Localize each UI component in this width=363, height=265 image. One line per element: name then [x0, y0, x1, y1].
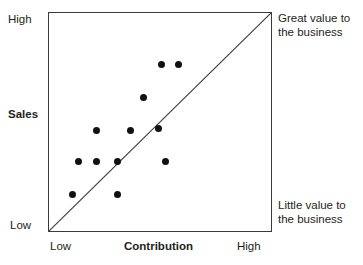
y-axis-low-label: Low	[10, 219, 31, 232]
annotation-little-value: Little value to the business	[278, 198, 346, 226]
data-point	[162, 158, 169, 165]
x-axis-high-label: High	[237, 240, 261, 253]
y-axis-high-label: High	[8, 13, 32, 26]
scatter-plot-figure: High Sales Low Low Contribution High Gre…	[0, 0, 363, 265]
annotation-great-value-line1: Great value to	[278, 11, 350, 25]
data-point	[175, 61, 182, 68]
diagonal-parity-line	[49, 13, 271, 231]
data-point	[127, 127, 134, 134]
plot-area	[48, 12, 272, 232]
x-axis-title: Contribution	[124, 240, 193, 253]
y-axis-title: Sales	[8, 108, 38, 121]
annotation-great-value: Great value to the business	[278, 11, 350, 39]
x-axis-low-label: Low	[50, 240, 71, 253]
annotation-little-value-line1: Little value to	[278, 198, 346, 212]
data-point	[93, 158, 100, 165]
data-point	[93, 127, 100, 134]
annotation-great-value-line2: the business	[278, 25, 350, 39]
annotation-little-value-line2: the business	[278, 212, 346, 226]
